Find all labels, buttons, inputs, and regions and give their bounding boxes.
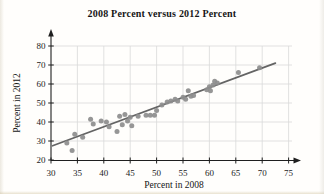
data-point xyxy=(186,88,191,93)
data-point xyxy=(115,129,120,134)
data-point xyxy=(88,117,93,122)
y-tick-label: 70 xyxy=(37,60,47,70)
scatter-figure: 2008 Percent versus 2012 Percent 3035404… xyxy=(0,0,324,194)
x-tick-label: 60 xyxy=(205,168,215,178)
data-point xyxy=(80,135,85,140)
data-point xyxy=(70,148,75,153)
x-axis-arrow-icon xyxy=(294,158,302,164)
data-point xyxy=(117,114,122,119)
data-point xyxy=(91,121,96,126)
data-point xyxy=(129,123,134,128)
y-tick-label: 30 xyxy=(37,136,47,146)
y-tick-label: 40 xyxy=(37,117,47,127)
x-tick-label: 65 xyxy=(231,168,241,178)
x-tick-label: 35 xyxy=(73,168,83,178)
data-point xyxy=(99,119,104,124)
x-tick-label: 30 xyxy=(47,168,57,178)
y-axis-arrow-icon xyxy=(48,29,54,37)
data-point xyxy=(136,114,141,119)
data-point xyxy=(183,97,188,102)
data-point xyxy=(122,112,127,117)
y-tick-label: 60 xyxy=(37,79,47,89)
y-tick-label: 80 xyxy=(37,41,47,51)
data-point xyxy=(107,124,112,129)
y-tick-label: 20 xyxy=(37,155,47,165)
data-point xyxy=(175,99,180,104)
y-axis-title: Percent in 2012 xyxy=(12,73,22,133)
data-point xyxy=(215,81,220,86)
x-tick-label: 45 xyxy=(126,168,136,178)
scatter-plot-svg: 3035404550556065707520304050607080 xyxy=(0,0,324,194)
data-point xyxy=(120,122,125,127)
data-point xyxy=(257,65,262,70)
data-point xyxy=(236,70,241,75)
x-tick-label: 50 xyxy=(152,168,162,178)
x-tick-label: 75 xyxy=(284,168,294,178)
x-tick-label: 40 xyxy=(99,168,109,178)
x-tick-label: 55 xyxy=(179,168,189,178)
data-point xyxy=(72,132,77,137)
axes xyxy=(48,29,301,163)
x-tick-label: 70 xyxy=(258,168,268,178)
tick-labels: 3035404550556065707520304050607080 xyxy=(37,41,294,178)
data-point xyxy=(64,140,69,145)
x-axis-title: Percent in 2008 xyxy=(51,180,297,190)
data-point xyxy=(208,88,213,93)
data-point xyxy=(191,93,196,98)
data-point xyxy=(128,115,133,120)
data-point xyxy=(154,108,159,113)
data-point xyxy=(152,113,157,118)
y-tick-label: 50 xyxy=(37,98,47,108)
data-point xyxy=(159,102,164,107)
data-point xyxy=(104,120,109,125)
